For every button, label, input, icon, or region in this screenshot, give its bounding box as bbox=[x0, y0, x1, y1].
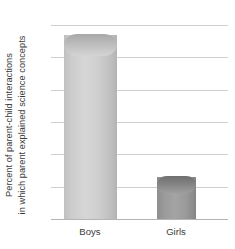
bar-boys bbox=[64, 35, 117, 219]
bar-girls-cap bbox=[157, 176, 196, 193]
gridline-30 bbox=[51, 25, 228, 26]
x-axis-label-girls: Girls bbox=[166, 226, 186, 237]
bar-chart: Percent of parent-child interactions in … bbox=[0, 0, 235, 249]
gridline-0 bbox=[51, 219, 228, 220]
y-axis-title: Percent of parent-child interactions in … bbox=[0, 0, 34, 249]
bar-boys-cap bbox=[64, 34, 117, 56]
x-axis-label-boys: Boys bbox=[79, 226, 100, 237]
bar-boys-body bbox=[64, 35, 117, 219]
plot-area: 302520151050 bbox=[51, 25, 228, 219]
bar-girls bbox=[157, 177, 196, 219]
y-axis-title-line-2: in which parent explained science concep… bbox=[17, 35, 27, 214]
y-axis-title-line-1: Percent of parent-child interactions bbox=[4, 53, 14, 197]
